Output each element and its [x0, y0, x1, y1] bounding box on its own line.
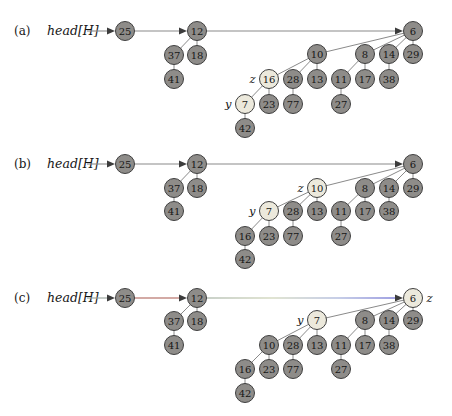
pointer-tag-y: y: [224, 97, 232, 111]
heap-node-13-value: 13: [311, 340, 324, 351]
heap-node-27-value: 27: [335, 99, 348, 110]
heap-node-12-value: 12: [191, 26, 204, 37]
root-list-arrowhead: [179, 161, 187, 168]
root-list-arrowhead: [107, 28, 115, 35]
heap-node-16-value: 16: [239, 364, 252, 375]
panel-label-b: (b): [14, 157, 31, 171]
heap-node-29-value: 29: [407, 49, 420, 60]
heap-node-10-value: 10: [311, 183, 324, 194]
heap-node-8-value: 8: [362, 315, 368, 326]
heap-node-8-value: 8: [362, 49, 368, 60]
panel-label-c: (c): [14, 291, 30, 305]
heap-node-18-value: 18: [191, 50, 204, 61]
pointer-tag-y: y: [296, 313, 304, 327]
heap-node-41-value: 41: [168, 206, 181, 217]
heap-node-41-value: 41: [168, 340, 181, 351]
heap-node-77-value: 77: [287, 231, 300, 242]
heap-node-14-value: 14: [383, 315, 396, 326]
heap-node-37-value: 37: [168, 316, 181, 327]
heap-node-23-value: 23: [263, 364, 276, 375]
heap-node-42-value: 42: [239, 254, 252, 265]
pointer-tag-z: z: [426, 291, 434, 305]
root-list-arrowhead: [107, 295, 115, 302]
heap-node-13-value: 13: [311, 74, 324, 85]
heap-node-42-value: 42: [239, 123, 252, 134]
heap-node-23-value: 23: [263, 99, 276, 110]
heap-node-38-value: 38: [383, 74, 396, 85]
heap-node-6-value: 6: [410, 26, 416, 37]
heap-node-28-value: 28: [287, 340, 300, 351]
pointer-tag-y: y: [248, 204, 256, 218]
root-list-arrowhead: [107, 161, 115, 168]
heap-node-25-value: 25: [119, 26, 132, 37]
panel-label-a: (a): [14, 24, 31, 38]
heap-node-11-value: 11: [335, 74, 348, 85]
heap-node-23-value: 23: [263, 231, 276, 242]
heap-node-7-value: 7: [242, 99, 248, 110]
binomial-heap-decrease-key-figure: (a)head[H]25126371810814294116z281311173…: [0, 0, 452, 416]
heap-node-7-value: 7: [314, 315, 320, 326]
heap-node-10-value: 10: [311, 49, 324, 60]
heap-node-12-value: 12: [191, 293, 204, 304]
heap-node-17-value: 17: [359, 340, 372, 351]
figure-svg: (a)head[H]25126371810814294116z281311173…: [0, 0, 452, 416]
root-list-arrowhead: [179, 28, 187, 35]
heap-node-38-value: 38: [383, 340, 396, 351]
heap-node-25-value: 25: [119, 293, 132, 304]
heap-node-17-value: 17: [359, 206, 372, 217]
heap-node-11-value: 11: [335, 206, 348, 217]
heap-node-12-value: 12: [191, 159, 204, 170]
heap-node-42-value: 42: [239, 388, 252, 399]
heap-node-14-value: 14: [383, 183, 396, 194]
heap-node-6-value: 6: [410, 293, 416, 304]
heap-node-41-value: 41: [168, 74, 181, 85]
heap-node-29-value: 29: [407, 315, 420, 326]
heap-node-13-value: 13: [311, 206, 324, 217]
heap-node-29-value: 29: [407, 183, 420, 194]
pointer-tag-z: z: [248, 72, 256, 86]
heap-node-77-value: 77: [287, 99, 300, 110]
heap-node-37-value: 37: [168, 183, 181, 194]
heap-node-18-value: 18: [191, 183, 204, 194]
heap-node-27-value: 27: [335, 364, 348, 375]
heap-node-8-value: 8: [362, 183, 368, 194]
heap-node-28-value: 28: [287, 74, 300, 85]
heap-node-7-value: 7: [266, 206, 272, 217]
panel-c: (c)head[H]25126z37187y814294110281311173…: [14, 289, 434, 403]
heap-node-17-value: 17: [359, 74, 372, 85]
heap-node-28-value: 28: [287, 206, 300, 217]
heap-node-27-value: 27: [335, 231, 348, 242]
heap-node-37-value: 37: [168, 50, 181, 61]
heap-node-6-value: 6: [410, 159, 416, 170]
heap-node-18-value: 18: [191, 316, 204, 327]
heap-node-11-value: 11: [335, 340, 348, 351]
pointer-tag-z: z: [296, 181, 304, 195]
heap-node-25-value: 25: [119, 159, 132, 170]
panel-b: (b)head[H]25126371810z81429417y281311173…: [14, 155, 423, 269]
heap-node-77-value: 77: [287, 364, 300, 375]
root-list-arrowhead: [179, 295, 187, 302]
heap-node-10-value: 10: [263, 340, 276, 351]
panel-a: (a)head[H]25126371810814294116z281311173…: [14, 22, 423, 138]
heap-node-16-value: 16: [239, 231, 252, 242]
heap-node-16-value: 16: [263, 74, 276, 85]
heap-node-38-value: 38: [383, 206, 396, 217]
heap-node-14-value: 14: [383, 49, 396, 60]
